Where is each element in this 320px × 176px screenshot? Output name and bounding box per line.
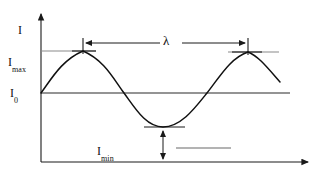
y-axis-label-text: I [18,23,22,37]
y-axis-label: I [18,21,22,37]
i-zero-label-sub: 0 [14,96,18,105]
wavelength-label-text: λ [163,33,169,48]
i-min-label-sub: min [101,154,114,163]
wavelength-label: λ [163,32,169,48]
intensity-diagram-figure: I Imax I0 Imin λ [0,0,320,176]
intensity-curve [41,51,280,127]
i-max-label-sub: max [12,65,26,74]
i-max-label: Imax [8,53,26,72]
i-min-label: Imin [97,142,114,161]
i-zero-label: I0 [10,84,18,103]
diagram-canvas [0,0,320,176]
